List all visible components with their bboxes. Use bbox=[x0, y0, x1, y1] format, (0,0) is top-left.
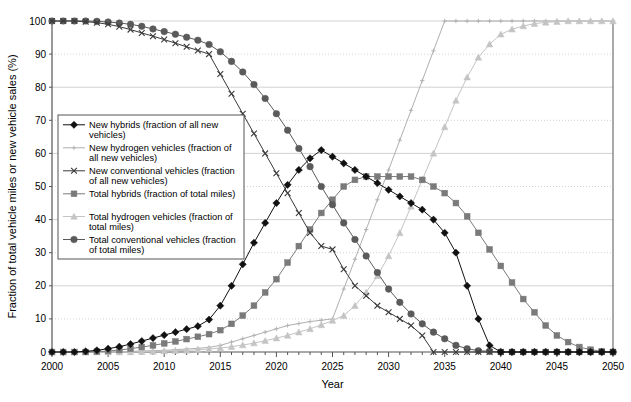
legend-item-3[interactable]: Total hybrids (fraction of total miles) bbox=[63, 189, 235, 199]
marker-square bbox=[161, 340, 167, 346]
marker-diamond bbox=[172, 329, 179, 336]
marker-circle bbox=[172, 31, 179, 38]
marker-square bbox=[532, 309, 538, 315]
marker-circle bbox=[296, 145, 303, 152]
marker-circle bbox=[363, 253, 370, 260]
legend-label-5-0: Total conventional vehicles (fraction bbox=[89, 235, 236, 245]
marker-triangle bbox=[397, 230, 404, 236]
marker-square bbox=[341, 184, 347, 190]
marker-square bbox=[520, 296, 526, 302]
marker-dot bbox=[274, 327, 278, 331]
marker-square bbox=[150, 342, 156, 348]
y-tick-label-10: 10 bbox=[35, 313, 47, 324]
marker-square bbox=[565, 339, 571, 345]
marker-triangle bbox=[318, 322, 325, 328]
marker-diamond bbox=[340, 160, 347, 167]
marker-diamond bbox=[262, 219, 269, 226]
marker-square bbox=[240, 313, 246, 319]
y-tick-label-80: 80 bbox=[35, 82, 47, 93]
marker-square bbox=[206, 331, 212, 337]
marker-diamond bbox=[351, 166, 358, 173]
marker-x bbox=[374, 303, 380, 309]
marker-triangle bbox=[441, 124, 448, 130]
marker-square bbox=[498, 263, 504, 269]
marker-circle bbox=[329, 201, 336, 208]
marker-dot bbox=[375, 198, 379, 202]
marker-square bbox=[229, 321, 235, 327]
marker-square bbox=[554, 333, 560, 339]
marker-x bbox=[296, 210, 302, 216]
marker-circle bbox=[262, 95, 269, 102]
marker-diamond bbox=[329, 153, 336, 160]
marker-diamond bbox=[464, 282, 471, 289]
marker-square bbox=[71, 191, 77, 197]
marker-dot bbox=[510, 19, 514, 23]
marker-square bbox=[397, 174, 403, 180]
legend-label-3-0: Total hybrids (fraction of total miles) bbox=[89, 189, 235, 199]
marker-dot bbox=[443, 19, 447, 23]
marker-circle bbox=[94, 18, 101, 25]
marker-circle bbox=[453, 342, 460, 349]
legend-label-0-1: vehicles) bbox=[89, 130, 126, 140]
marker-circle bbox=[116, 20, 123, 27]
marker-circle bbox=[419, 321, 426, 328]
marker-dot bbox=[398, 138, 402, 142]
marker-circle bbox=[183, 34, 190, 41]
marker-diamond bbox=[475, 315, 482, 322]
marker-dot bbox=[353, 257, 357, 261]
marker-dot bbox=[409, 108, 413, 112]
marker-circle bbox=[161, 28, 168, 35]
marker-dot bbox=[285, 323, 289, 327]
marker-x bbox=[229, 91, 235, 97]
marker-dot bbox=[487, 19, 491, 23]
marker-square bbox=[543, 323, 549, 329]
x-axis-title: Year bbox=[321, 378, 344, 390]
marker-diamond bbox=[486, 342, 493, 349]
marker-circle bbox=[217, 48, 224, 55]
marker-circle bbox=[251, 81, 258, 88]
marker-x bbox=[251, 131, 257, 137]
marker-dot bbox=[465, 19, 469, 23]
marker-dot bbox=[386, 168, 390, 172]
marker-diamond bbox=[250, 239, 257, 246]
y-tick-label-70: 70 bbox=[35, 115, 47, 126]
chart-container: 0102030405060708090100200020052010201520… bbox=[0, 0, 631, 402]
marker-triangle bbox=[307, 326, 314, 332]
marker-x bbox=[139, 30, 145, 36]
marker-diamond bbox=[374, 180, 381, 187]
y-axis-title: Fraction of total vehicle miles or new v… bbox=[6, 54, 18, 318]
marker-x bbox=[195, 48, 201, 54]
marker-square bbox=[408, 174, 414, 180]
legend-label-2-1: of all new vehicles) bbox=[89, 176, 168, 186]
marker-triangle bbox=[385, 253, 392, 259]
line-chart: 0102030405060708090100200020052010201520… bbox=[0, 0, 631, 402]
marker-square bbox=[173, 339, 179, 345]
marker-diamond bbox=[452, 249, 459, 256]
marker-circle bbox=[352, 236, 359, 243]
marker-dot bbox=[420, 78, 424, 82]
marker-dot bbox=[297, 321, 301, 325]
x-tick-label-2045: 2045 bbox=[546, 361, 569, 372]
marker-x bbox=[184, 44, 190, 50]
y-tick-label-50: 50 bbox=[35, 181, 47, 192]
y-tick-label-0: 0 bbox=[40, 347, 46, 358]
marker-square bbox=[262, 290, 268, 296]
marker-dot bbox=[364, 227, 368, 231]
marker-square bbox=[195, 334, 201, 340]
legend: New hybrids (fraction of all newvehicles… bbox=[58, 115, 244, 259]
marker-diamond bbox=[396, 193, 403, 200]
marker-square bbox=[251, 303, 257, 309]
marker-square bbox=[274, 276, 280, 282]
marker-triangle bbox=[453, 97, 460, 103]
marker-dot bbox=[476, 19, 480, 23]
marker-circle bbox=[441, 335, 448, 342]
marker-circle bbox=[430, 329, 437, 336]
marker-square bbox=[374, 174, 380, 180]
marker-square bbox=[442, 190, 448, 196]
marker-square bbox=[431, 184, 437, 190]
legend-label-4-0: Total hydrogen vehicles (fraction of bbox=[89, 212, 233, 222]
marker-triangle bbox=[498, 31, 505, 37]
marker-diamond bbox=[149, 334, 156, 341]
marker-diamond bbox=[385, 186, 392, 193]
marker-circle bbox=[307, 163, 314, 170]
